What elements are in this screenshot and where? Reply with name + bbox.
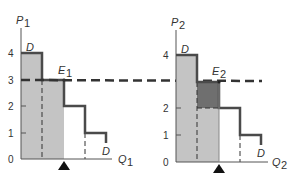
diagram: 0 1 2 3 4 P 1 Q 1 D D E 1 bbox=[0, 0, 296, 181]
left-chart: 0 1 2 3 4 P 1 Q 1 D D E 1 bbox=[8, 14, 133, 170]
right-triangle-marker bbox=[213, 164, 225, 173]
right-x-sub: 2 bbox=[281, 159, 287, 171]
right-shaded-area-2 bbox=[197, 108, 219, 162]
price-line-dashed bbox=[21, 80, 262, 81]
left-tick-4: 4 bbox=[8, 48, 14, 59]
right-tick-2: 2 bbox=[163, 103, 169, 114]
right-equilibrium-label: E bbox=[212, 65, 220, 77]
right-tick-1: 1 bbox=[163, 130, 169, 141]
right-demand-label-bottom: D bbox=[257, 147, 265, 159]
left-tick-0: 0 bbox=[8, 154, 14, 165]
left-shaded-area-2 bbox=[42, 80, 64, 159]
left-tick-3: 3 bbox=[8, 75, 14, 86]
right-chart: 0 1 2 4 P 2 Q 2 D D E 2 bbox=[163, 16, 287, 173]
right-tick-4: 4 bbox=[163, 50, 169, 61]
right-x-label: Q bbox=[272, 156, 281, 168]
left-demand-label-top: D bbox=[26, 41, 34, 53]
left-tick-2: 2 bbox=[8, 101, 14, 112]
right-equilibrium-sub: 2 bbox=[220, 68, 226, 80]
left-x-sub: 1 bbox=[127, 156, 133, 168]
right-tick-0: 0 bbox=[163, 157, 169, 168]
left-y-label: P bbox=[16, 14, 24, 26]
right-equilibrium-point bbox=[218, 81, 221, 84]
left-x-label: Q bbox=[118, 153, 127, 165]
left-equilibrium-label: E bbox=[58, 64, 66, 76]
right-y-label: P bbox=[171, 16, 179, 28]
right-demand-label-top: D bbox=[181, 43, 189, 55]
right-y-sub: 2 bbox=[179, 19, 185, 31]
left-y-sub: 1 bbox=[24, 17, 30, 29]
left-tick-1: 1 bbox=[8, 128, 14, 139]
left-triangle-marker bbox=[58, 161, 70, 170]
right-dark-shaded-area bbox=[197, 82, 219, 108]
left-demand-label-bottom: D bbox=[102, 145, 110, 157]
left-equilibrium-sub: 1 bbox=[66, 67, 72, 79]
